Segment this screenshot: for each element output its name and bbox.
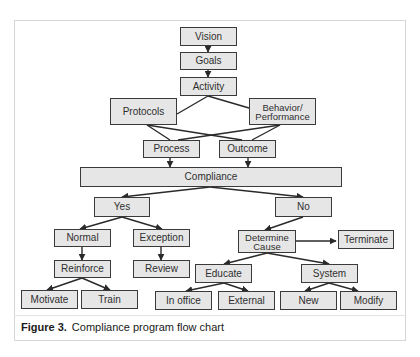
node-terminate: Terminate	[338, 230, 394, 249]
figure-label: Figure 3.	[21, 321, 67, 333]
node-reinforce: Reinforce	[54, 260, 111, 278]
node-train: Train	[81, 290, 138, 309]
node-new: New	[280, 291, 337, 310]
figure-caption: Figure 3.Compliance program flow chart	[21, 321, 224, 333]
node-compliance: Compliance	[80, 167, 342, 187]
node-protocols: Protocols	[110, 98, 177, 125]
node-activity: Activity	[180, 77, 237, 96]
node-exception: Exception	[133, 229, 190, 247]
figure-title: Compliance program flow chart	[72, 321, 224, 333]
node-outcome: Outcome	[219, 140, 276, 158]
node-process: Process	[143, 140, 200, 158]
node-determine-cause: Determine Cause	[238, 230, 296, 253]
node-yes: Yes	[94, 197, 150, 217]
node-educate: Educate	[195, 264, 252, 283]
node-normal: Normal	[54, 229, 111, 247]
node-review: Review	[133, 260, 190, 278]
node-modify: Modify	[340, 291, 397, 310]
node-vision: Vision	[180, 27, 237, 46]
node-in-office: In office	[155, 291, 212, 310]
node-system: System	[301, 264, 358, 283]
node-no: No	[275, 197, 332, 217]
node-motivate: Motivate	[21, 290, 78, 309]
node-goals: Goals	[180, 52, 237, 70]
node-external: External	[218, 291, 275, 310]
node-behavior-performance: Behavior/ Performance	[249, 98, 316, 125]
